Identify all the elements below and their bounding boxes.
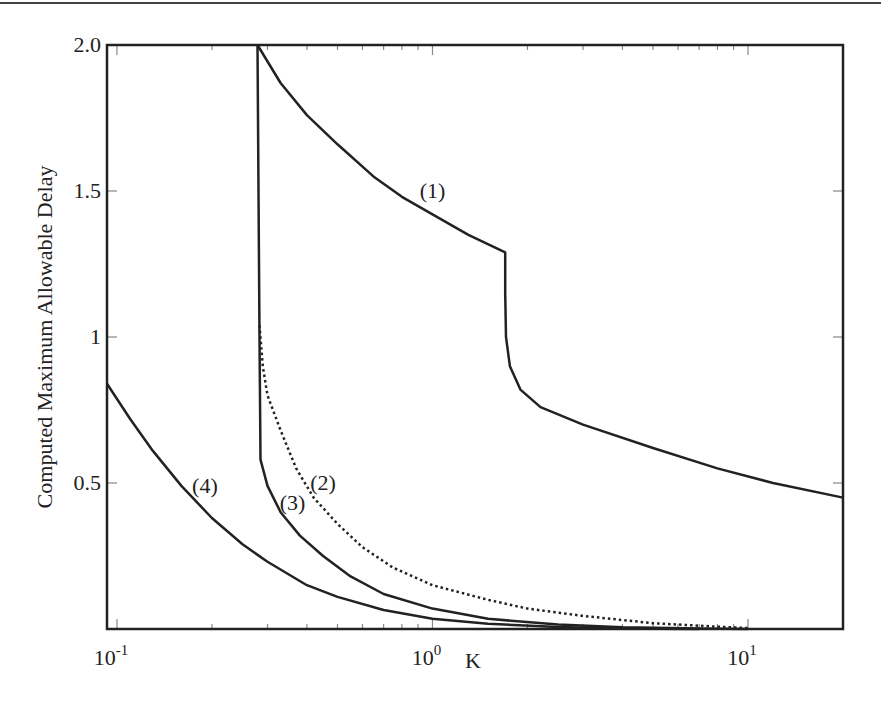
- axis-ticks: [107, 45, 843, 629]
- y-tick-label: 1: [90, 324, 101, 349]
- curves: [107, 45, 843, 629]
- curve-labels: (1)(2)(3)(4): [192, 178, 445, 515]
- delay-vs-k-chart: 0.511.52.0 10-1100101 (1)(2)(3)(4) K Com…: [0, 0, 881, 713]
- y-tick-label: 2.0: [74, 32, 102, 57]
- curve-4: [107, 384, 699, 629]
- curve-1: [258, 45, 844, 498]
- plot-frame: [107, 45, 843, 629]
- curve-label: (1): [420, 178, 446, 203]
- y-tick-labels: 0.511.52.0: [74, 32, 102, 495]
- x-tick-labels: 10-1100101: [94, 642, 757, 670]
- x-axis-label: K: [465, 648, 481, 673]
- x-tick-label: 101: [727, 642, 757, 670]
- x-tick-label: 10-1: [94, 642, 129, 670]
- curve-label: (2): [310, 470, 336, 495]
- curve-label: (4): [192, 473, 218, 498]
- curve-label: (3): [280, 490, 306, 515]
- y-axis-label: Computed Maximum Allowable Delay: [32, 166, 57, 509]
- curve-3: [258, 45, 749, 629]
- y-tick-label: 1.5: [74, 178, 102, 203]
- y-tick-label: 0.5: [74, 470, 102, 495]
- x-tick-label: 100: [412, 642, 442, 670]
